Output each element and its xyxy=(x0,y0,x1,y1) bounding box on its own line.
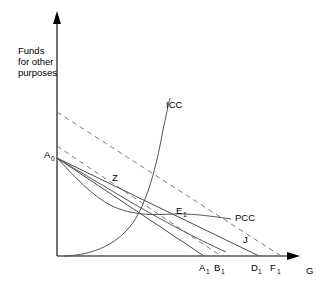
label-d1-base: D xyxy=(251,262,258,273)
label-d1-sub: 1 xyxy=(258,268,262,275)
label-z: Z xyxy=(112,172,118,183)
x-axis-label: G xyxy=(306,265,313,276)
y-axis-arrowhead xyxy=(53,11,61,24)
label-b1-sub: 1 xyxy=(221,268,225,275)
y-axis-label-line-3: purposes xyxy=(18,67,57,78)
label-f1: F 1 xyxy=(270,262,281,275)
figure-root: ICC PCC A 0 Z E 1 J A 1 xyxy=(0,0,324,293)
label-e1-sub: 1 xyxy=(183,211,187,218)
label-j-base: J xyxy=(243,234,248,245)
label-z-base: Z xyxy=(112,172,118,183)
budget-line-a0-d1 xyxy=(57,158,259,256)
label-j: J xyxy=(243,234,248,245)
label-a0-base: A xyxy=(44,149,51,160)
label-a1-sub: 1 xyxy=(206,268,210,275)
label-a0: A 0 xyxy=(44,149,55,162)
y-axis-label-line-2: for other xyxy=(18,56,53,67)
dashed-budget-line-lower xyxy=(57,146,221,256)
solid-budget-lines-group xyxy=(57,158,259,256)
pcc-label: PCC xyxy=(235,212,255,223)
label-e1-base: E xyxy=(176,205,182,216)
diagram-canvas: ICC PCC A 0 Z E 1 J A 1 xyxy=(0,0,324,293)
label-f1-sub: 1 xyxy=(277,268,281,275)
label-b1-base: B xyxy=(214,262,220,273)
y-axis-label-line-1: Funds xyxy=(18,45,45,56)
label-d1: D 1 xyxy=(251,262,262,275)
label-a1-base: A xyxy=(199,262,206,273)
label-a1: A 1 xyxy=(199,262,210,275)
label-f1-base: F xyxy=(270,262,276,273)
axes-group xyxy=(53,11,300,260)
x-axis-arrowhead xyxy=(287,252,300,260)
indifference-curve-through-z xyxy=(57,158,226,252)
label-b1: B 1 xyxy=(214,262,225,275)
icc-label: ICC xyxy=(166,99,183,110)
label-a0-sub: 0 xyxy=(51,155,55,162)
